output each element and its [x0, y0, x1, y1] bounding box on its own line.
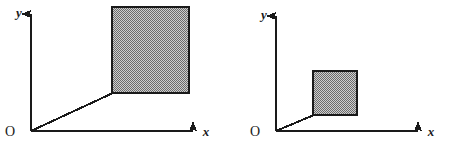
left-origin-label: O [5, 124, 15, 139]
figure-container: y x O y x O [0, 0, 450, 152]
right-y-axis-label: y [259, 7, 267, 22]
right-shaded-square [313, 71, 357, 115]
figure-background [0, 0, 450, 152]
diagram-canvas: y x O y x O [0, 0, 450, 152]
left-shaded-square [112, 7, 189, 93]
left-x-axis-label: x [202, 124, 210, 139]
right-x-axis-label: x [427, 124, 435, 139]
right-origin-label: O [250, 124, 260, 139]
left-y-axis-label: y [14, 5, 22, 20]
